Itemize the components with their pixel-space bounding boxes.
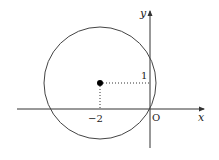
x-axis-label: x — [198, 111, 205, 124]
tick-label-1: 1 — [141, 70, 147, 81]
y-axis-label: y — [139, 7, 147, 20]
center-point — [97, 80, 103, 86]
origin-label: O — [152, 112, 160, 123]
diagram-canvas: y x O 1 −2 — [0, 0, 219, 160]
tick-label-neg2: −2 — [88, 113, 103, 124]
